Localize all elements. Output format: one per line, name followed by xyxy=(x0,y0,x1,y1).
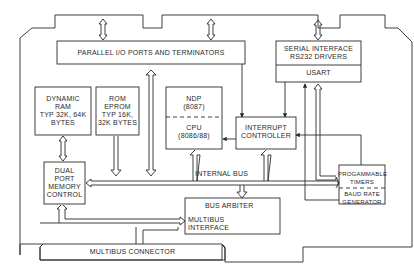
usart-label: USART xyxy=(276,69,361,77)
rom-eprom-label: ROM EPROM TYP 16K, 32K BYTES xyxy=(96,95,139,127)
rom-bus-arrow xyxy=(111,136,121,176)
cpu-label: CPU (8086/88) xyxy=(166,124,222,140)
programmable-timers-label: PROGAMMABLE TIMERS xyxy=(338,170,386,186)
ram-dualport-double-arrow xyxy=(59,136,67,161)
internal-bus-label: INTERNAL BUS xyxy=(195,170,265,178)
dual-port-memory-label: DUAL PORT MEMORY CONTROL xyxy=(44,167,85,199)
bus-arbiter-label: BUS ARBITER xyxy=(205,202,280,210)
parallel-io-top-double-arrow xyxy=(99,19,107,40)
internal-bus xyxy=(86,179,338,187)
parallel-io-bus-arrow xyxy=(146,70,156,176)
interrupt-controller-label: INTERRUPT CONTROLLER xyxy=(236,124,296,140)
multibus-connector-label: MULTIBUS CONNECTOR xyxy=(40,248,225,256)
parallel-io-label: PARALLEL I/O PORTS AND TERMINATORS xyxy=(57,49,245,57)
baud-rate-generator-label: BAUD RATE GENERATOR xyxy=(338,190,386,206)
bus-arbiter-link xyxy=(237,185,247,198)
top-middle-double-arrow xyxy=(207,19,215,40)
serial-interface-label: SERIAL INTERFACE RS232 DRIVERS xyxy=(276,45,361,61)
dualport-multibus-arrow xyxy=(40,205,185,225)
dynamic-ram-label: DYNAMIC RAM TYP 32K, 64K BYTES xyxy=(35,95,91,127)
multibus-interface-label: MULTIBUS INTERFACE xyxy=(188,216,248,232)
ndp-label: NDP (8087) xyxy=(166,95,222,111)
